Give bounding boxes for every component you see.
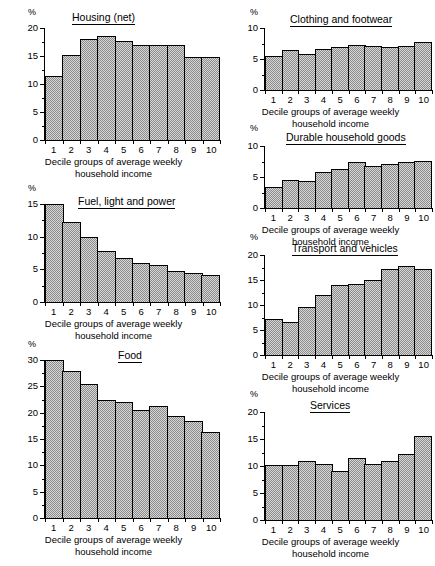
x-axis-tick	[432, 90, 433, 94]
bar	[80, 39, 99, 140]
x-axis-tick-label: 1	[271, 525, 276, 535]
chart-inner: %Fuel, light and power12345678910051015D…	[6, 182, 221, 357]
y-axis-tick-label: 20	[240, 250, 258, 260]
bar	[398, 266, 416, 356]
bar	[97, 400, 116, 519]
y-axis-tick-label: 15	[240, 434, 258, 444]
x-axis-tick	[63, 140, 64, 144]
bar	[364, 46, 382, 90]
x-axis-tick-label: 4	[321, 213, 326, 223]
bar	[398, 46, 416, 90]
y-axis-tick-label: 20	[20, 408, 38, 418]
bar	[331, 47, 349, 90]
x-axis-tick	[332, 90, 333, 94]
x-axis-tick	[98, 518, 99, 522]
bar	[167, 45, 186, 140]
bar	[115, 258, 134, 302]
bar	[265, 187, 283, 208]
bar	[348, 45, 366, 90]
x-axis-tick	[115, 302, 116, 306]
bar	[97, 251, 116, 302]
chart-inner: %Housing (net)1234567891005101520Decile …	[6, 4, 221, 179]
bar-series	[45, 360, 220, 518]
bar	[282, 180, 300, 208]
x-axis-tick	[45, 302, 46, 306]
bar	[115, 41, 134, 140]
x-axis-tick-label: 6	[139, 307, 144, 317]
x-axis-tick-label: 7	[156, 145, 161, 155]
bar	[265, 56, 283, 90]
x-axis-tick-label: 6	[354, 360, 359, 370]
x-axis-tick-label: 4	[321, 360, 326, 370]
x-axis-tick-label: 10	[206, 307, 217, 317]
x-axis-caption: Decile groups of average weekly househol…	[6, 534, 221, 557]
y-axis-tick-label: 20	[240, 407, 258, 417]
y-axis-tick-label: 0	[20, 513, 38, 523]
bar	[184, 273, 203, 302]
x-axis-tick	[63, 518, 64, 522]
y-axis-tick-label: 15	[20, 51, 38, 61]
bar	[80, 237, 99, 302]
chart-inner: %Food12345678910051015202530Decile group…	[6, 338, 221, 564]
x-axis-tick	[365, 208, 366, 212]
x-axis-tick-label: 2	[69, 307, 74, 317]
x-axis-tick	[315, 208, 316, 212]
x-axis-tick-label: 7	[371, 213, 376, 223]
x-axis-tick-label: 2	[69, 145, 74, 155]
x-axis-tick	[332, 208, 333, 212]
bar-series	[45, 28, 220, 140]
x-axis-tick-label: 2	[287, 213, 292, 223]
y-axis-tick-label: 5	[20, 107, 38, 117]
chart-title: Durable household goods	[286, 132, 406, 145]
x-axis-tick	[220, 302, 221, 306]
bar-series	[265, 28, 432, 90]
bar	[364, 166, 382, 208]
x-axis-tick-label: 5	[337, 525, 342, 535]
bar	[62, 55, 81, 140]
bar	[62, 222, 81, 302]
x-axis-tick-label: 7	[371, 95, 376, 105]
y-axis-tick-label: 10	[240, 141, 258, 151]
x-axis-tick-label: 7	[156, 523, 161, 533]
y-axis-tick-label: 10	[240, 461, 258, 471]
plot-area: 12345678910	[264, 146, 432, 209]
bar	[184, 421, 203, 518]
x-axis-tick	[298, 520, 299, 524]
plot-area: 12345678910	[264, 412, 432, 521]
x-axis-tick-label: 1	[271, 360, 276, 370]
plot-area: 12345678910	[44, 204, 220, 303]
x-axis-tick	[415, 90, 416, 94]
x-axis-tick	[45, 140, 46, 144]
x-axis-tick	[133, 518, 134, 522]
chart-durable-household-goods: %Durable household goods123456789100510D…	[228, 124, 433, 242]
x-axis-tick-label: 8	[388, 525, 393, 535]
x-axis-tick	[203, 302, 204, 306]
x-axis-tick-label: 5	[121, 145, 126, 155]
x-axis-tick	[80, 518, 81, 522]
bar	[132, 45, 151, 140]
y-axis-tick-label: 15	[20, 199, 38, 209]
x-axis-tick-label: 9	[404, 360, 409, 370]
x-axis-tick-label: 3	[86, 145, 91, 155]
bar	[315, 172, 333, 208]
bar	[80, 384, 99, 518]
x-axis-tick-label: 6	[354, 525, 359, 535]
x-axis-tick	[150, 518, 151, 522]
bar	[282, 465, 300, 520]
x-axis-tick	[382, 355, 383, 359]
x-axis-tick	[168, 302, 169, 306]
chart-transport-vehicles: %Transport and vehicles12345678910051015…	[228, 237, 433, 385]
y-axis-tick-label: 5	[20, 487, 38, 497]
bar	[282, 322, 300, 355]
plot-area: 12345678910	[264, 255, 432, 356]
x-axis-tick	[432, 520, 433, 524]
bar	[167, 416, 186, 518]
bar	[414, 269, 432, 356]
x-axis-tick-label: 6	[139, 145, 144, 155]
x-axis-tick	[365, 355, 366, 359]
bar	[414, 436, 432, 520]
x-axis-tick-label: 1	[51, 307, 56, 317]
bar	[348, 162, 366, 209]
x-axis-caption: Decile groups of average weekly househol…	[228, 536, 433, 559]
x-axis-tick-label: 5	[337, 360, 342, 370]
